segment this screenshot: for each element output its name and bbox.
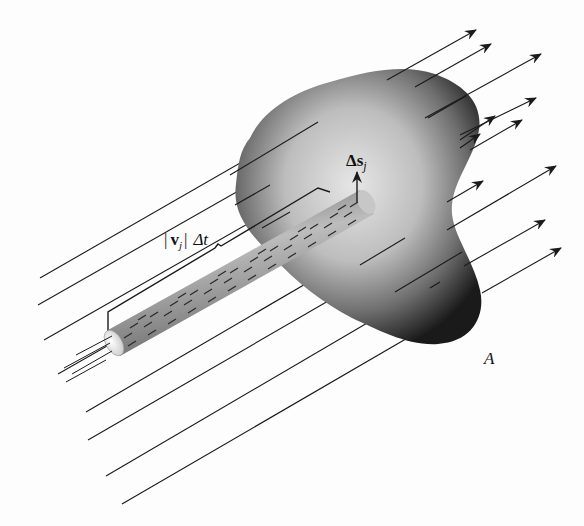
surface-A-label: A (483, 349, 495, 368)
diagram-svg: Δsj |vj|Δt A (0, 0, 584, 526)
velocity-time-label: |vj|Δt (164, 230, 209, 251)
flux-diagram: Δsj |vj|Δt A (0, 0, 584, 526)
